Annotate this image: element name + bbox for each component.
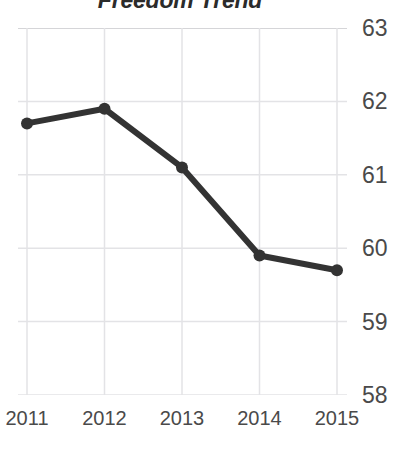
y-axis-tick-label: 62 bbox=[362, 90, 408, 113]
y-axis-tick-label: 60 bbox=[362, 237, 408, 260]
data-point-marker bbox=[99, 103, 111, 115]
x-axis-tick-label: 2014 bbox=[237, 408, 282, 428]
y-axis-tick-label: 63 bbox=[362, 17, 408, 40]
chart-title: Freedom Trend bbox=[0, 0, 360, 14]
grid-lines bbox=[18, 28, 347, 395]
data-point-marker bbox=[176, 161, 188, 173]
x-axis-tick-label: 2013 bbox=[160, 408, 205, 428]
data-point-marker bbox=[254, 250, 266, 262]
chart-container: Freedom Trend 636261605958 2011201220132… bbox=[0, 0, 414, 461]
x-axis-tick-label: 2011 bbox=[5, 408, 48, 428]
y-axis-tick-label: 59 bbox=[362, 310, 408, 333]
plot-area bbox=[18, 28, 347, 395]
x-axis-tick-label: 2015 bbox=[315, 408, 360, 428]
x-axis-tick-label: 2012 bbox=[82, 408, 127, 428]
y-axis-tick-label: 58 bbox=[362, 384, 408, 407]
data-point-marker bbox=[331, 264, 343, 276]
y-axis-tick-label: 61 bbox=[362, 163, 408, 186]
line-chart-svg bbox=[18, 28, 347, 395]
data-point-marker bbox=[21, 117, 33, 129]
